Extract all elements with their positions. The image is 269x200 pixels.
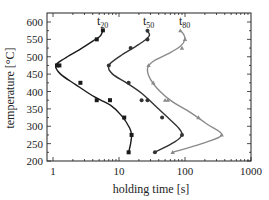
y-tick-label: 500: [27, 51, 44, 63]
y-tick-labels: 200250300350400450500550600: [27, 16, 44, 167]
x-tick-label: 1: [50, 165, 56, 177]
data-point-t20: [127, 150, 131, 154]
data-point-t20: [130, 133, 134, 137]
x-tick-label: 1000: [240, 165, 263, 177]
data-point-t80: [220, 133, 224, 137]
data-point-t50: [127, 81, 131, 85]
y-tick-label: 350: [27, 103, 44, 115]
series-curves: [56, 30, 222, 152]
y-tick-label: 200: [27, 155, 44, 167]
y-tick-label: 300: [27, 120, 44, 132]
x-tick-label: 10: [114, 165, 126, 177]
data-point-t50: [145, 37, 149, 41]
curve-t50: [108, 31, 182, 153]
y-tick-label: 600: [27, 16, 44, 28]
y-tick-label: 250: [27, 138, 44, 150]
y-tick-label: 400: [27, 86, 44, 98]
chart: 200250300350400450500550600 1101001000 t…: [0, 0, 269, 200]
data-point-t50: [180, 133, 184, 137]
data-point-t20: [57, 63, 61, 67]
y-tick-label: 550: [27, 33, 44, 45]
data-point-t50: [140, 98, 144, 102]
data-point-t50: [145, 98, 149, 102]
series-label-t20: t20: [97, 14, 108, 30]
curve-t80: [147, 31, 221, 153]
x-tick-labels: 1101001000: [50, 165, 262, 177]
data-point-t50: [153, 150, 157, 154]
y-tick-label: 450: [27, 68, 44, 80]
data-point-t80: [183, 37, 187, 41]
curve-t20: [56, 30, 132, 152]
series-label-t50: t50: [143, 14, 154, 30]
x-axis-label: holding time [s]: [113, 182, 190, 196]
data-point-t20: [95, 37, 99, 41]
y-axis-label: temperature [°C]: [3, 47, 17, 128]
data-point-t50: [129, 46, 133, 50]
data-point-t20: [108, 98, 112, 102]
data-point-t50: [160, 116, 164, 120]
data-point-t20: [95, 98, 99, 102]
x-tick-label: 100: [177, 165, 194, 177]
data-point-t20: [122, 116, 126, 120]
data-point-t50: [107, 63, 111, 67]
data-point-t20: [78, 81, 82, 85]
